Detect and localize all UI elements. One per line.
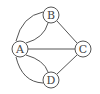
graph-svg: A B C D <box>0 0 100 94</box>
edge-b-c <box>57 21 77 43</box>
edge-a-b-inner <box>26 23 48 43</box>
node-b: B <box>43 7 59 23</box>
edge-a-d-inner <box>26 55 48 72</box>
node-a-label: A <box>15 43 25 56</box>
node-d-label: D <box>47 74 56 87</box>
node-b-label: B <box>47 9 55 22</box>
node-c: C <box>75 41 91 57</box>
edge-d-c <box>57 55 77 74</box>
node-c-label: C <box>79 43 87 56</box>
graph-diagram: A B C D <box>0 0 100 94</box>
node-d: D <box>43 72 59 88</box>
node-a: A <box>12 41 28 57</box>
